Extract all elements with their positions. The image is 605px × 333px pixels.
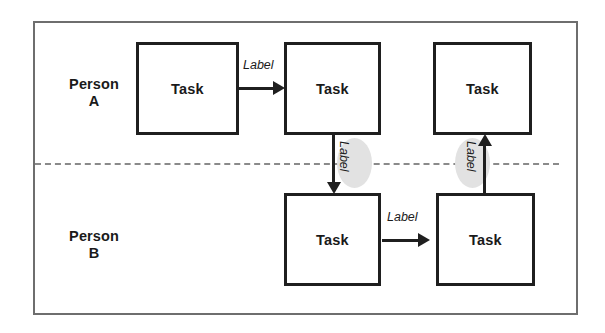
lane-label-person-a: Person A — [52, 76, 136, 110]
task-node-a1[interactable]: Task — [136, 42, 239, 135]
connector-line — [239, 87, 275, 90]
task-node-a3[interactable]: Task — [433, 42, 532, 135]
edge-label-a2-b1: Label — [337, 141, 351, 172]
arrowhead-right-icon — [273, 81, 285, 95]
arrowhead-down-icon — [327, 182, 341, 194]
edge-label-b1-b2: Label — [387, 210, 418, 224]
edge-label-b2-a3: Label — [464, 141, 478, 172]
task-node-label: Task — [171, 81, 204, 97]
task-node-label: Task — [316, 81, 349, 97]
connector-line — [382, 239, 420, 242]
lane-label-person-b: Person B — [52, 228, 136, 262]
task-node-a2[interactable]: Task — [284, 42, 381, 135]
diagram-canvas: Person A Person B Task Task Task Task Ta… — [0, 0, 605, 333]
task-node-label: Task — [316, 232, 349, 248]
task-node-b1[interactable]: Task — [284, 193, 381, 286]
arrowhead-up-icon — [478, 134, 492, 146]
task-node-label: Task — [469, 232, 502, 248]
arrowhead-right-icon — [418, 233, 430, 247]
connector-line — [483, 146, 486, 194]
task-node-b2[interactable]: Task — [436, 193, 535, 286]
connector-line — [332, 135, 335, 184]
task-node-label: Task — [466, 81, 499, 97]
edge-label-a1-a2: Label — [243, 58, 274, 72]
